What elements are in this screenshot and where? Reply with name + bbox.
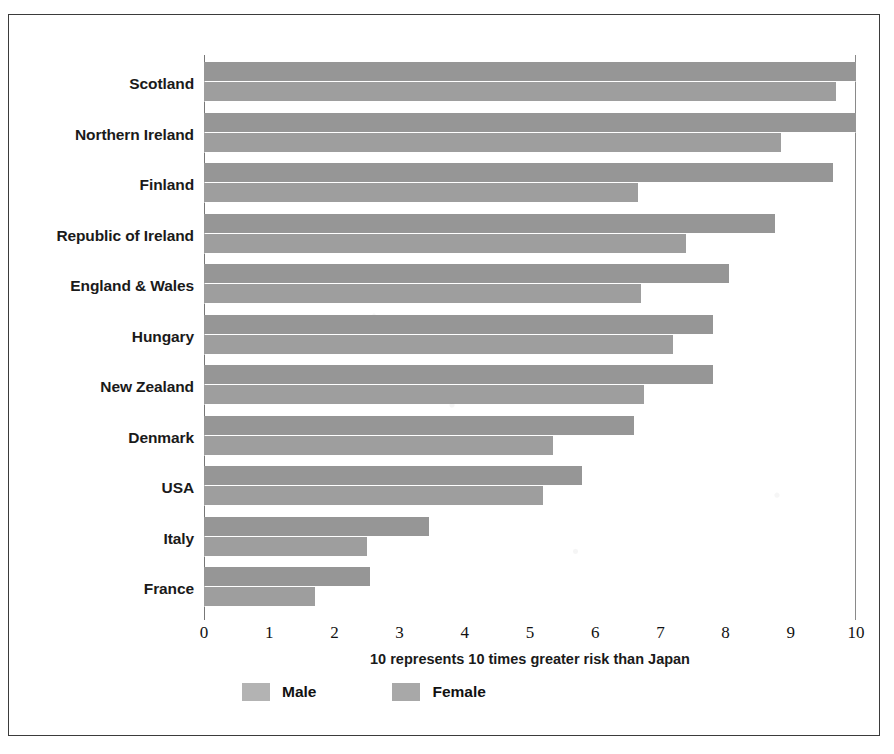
bar-row: England & Wales (204, 261, 856, 312)
x-tick-label: 3 (395, 623, 404, 643)
bar-row: Finland (204, 160, 856, 211)
legend-item[interactable]: Female (392, 683, 485, 701)
bar-female (204, 284, 641, 303)
category-label: Republic of Ireland (56, 227, 194, 245)
legend-swatch-icon (242, 683, 270, 701)
bar-row: Northern Ireland (204, 110, 856, 161)
bar-row: USA (204, 463, 856, 514)
figure-frame: ScotlandNorthern IrelandFinlandRepublic … (8, 14, 880, 736)
bar-row: Italy (204, 514, 856, 565)
x-tick-label: 5 (526, 623, 535, 643)
bar-female (204, 183, 638, 202)
x-tick-label: 2 (330, 623, 339, 643)
x-tick-label: 9 (787, 623, 796, 643)
bar-female (204, 587, 315, 606)
bar-male (204, 264, 729, 283)
bar-row: Denmark (204, 413, 856, 464)
bar-male (204, 163, 833, 182)
legend-item[interactable]: Male (242, 683, 316, 701)
category-label: Denmark (128, 429, 194, 447)
bar-female (204, 537, 367, 556)
bar-female (204, 335, 673, 354)
category-label: Italy (163, 530, 194, 548)
bar-female (204, 436, 553, 455)
bar-male (204, 62, 856, 81)
bar-row: New Zealand (204, 362, 856, 413)
category-label: England & Wales (70, 277, 194, 295)
x-axis-caption: 10 represents 10 times greater risk than… (204, 651, 856, 667)
bar-male (204, 517, 429, 536)
bar-male (204, 315, 713, 334)
chart-legend: MaleFemale (204, 683, 894, 701)
bar-row: Republic of Ireland (204, 211, 856, 262)
x-tick-label: 4 (461, 623, 470, 643)
bar-row: Hungary (204, 312, 856, 363)
bar-rows: ScotlandNorthern IrelandFinlandRepublic … (204, 59, 856, 615)
x-tick-label: 6 (591, 623, 600, 643)
x-tick-label: 10 (848, 623, 865, 643)
bar-female (204, 234, 686, 253)
bar-male (204, 466, 582, 485)
x-tick-label: 0 (200, 623, 209, 643)
x-axis-ticks: 012345678910 (204, 623, 856, 649)
category-label: Scotland (129, 75, 194, 93)
bar-male (204, 416, 634, 435)
x-tick-label: 1 (265, 623, 274, 643)
bar-row: Scotland (204, 59, 856, 110)
category-label: New Zealand (100, 378, 194, 396)
legend-label: Male (282, 683, 316, 701)
category-label: Hungary (132, 328, 194, 346)
bar-male (204, 214, 775, 233)
bar-female (204, 486, 543, 505)
bar-male (204, 113, 856, 132)
legend-label: Female (432, 683, 485, 701)
category-label: France (144, 580, 194, 598)
x-tick-label: 7 (656, 623, 665, 643)
bar-chart: ScotlandNorthern IrelandFinlandRepublic … (9, 15, 894, 754)
category-label: USA (162, 479, 194, 497)
bar-male (204, 365, 713, 384)
legend-swatch-icon (392, 683, 420, 701)
bar-female (204, 133, 781, 152)
bar-male (204, 567, 370, 586)
bar-female (204, 82, 836, 101)
bar-female (204, 385, 644, 404)
category-label: Northern Ireland (75, 126, 194, 144)
bar-row: France (204, 564, 856, 615)
category-label: Finland (140, 176, 194, 194)
x-tick-label: 8 (721, 623, 730, 643)
